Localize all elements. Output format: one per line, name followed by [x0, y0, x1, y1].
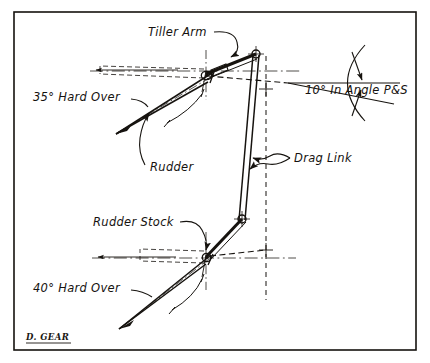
upper-angle-label: 35° Hard Over — [33, 90, 121, 104]
rudder-linkage-diagram: 10° In Angle P&S Tiller Arm 35° Hard Ove… — [0, 0, 430, 363]
rudder-stock-leader — [180, 221, 207, 250]
in-angle-label: 10° In Angle P&S — [305, 83, 408, 97]
rudder-annotation: Rudder — [140, 113, 195, 174]
upper-blade-trailing-edge — [116, 82, 208, 134]
in-angle-detail: 10° In Angle P&S — [288, 45, 408, 121]
upper-rudder-neutral-bottom — [100, 74, 204, 78]
upper-angle-leg-vertical — [202, 71, 206, 92]
drag-link-leader-lower — [250, 158, 290, 169]
upper-angle-leader — [131, 99, 148, 107]
rudder-leader — [140, 113, 149, 165]
drag-link-assembly — [234, 46, 273, 300]
lower-angle-annotation: 40° Hard Over — [33, 281, 152, 297]
tiller-arm-annotation: Tiller Arm — [148, 25, 238, 57]
in-angle-arrow-upper — [352, 52, 362, 80]
drag-link-label: Drag Link — [294, 151, 353, 165]
upper-blade-leading-edge — [116, 73, 212, 134]
upper-rudder-neutral-top — [100, 66, 204, 69]
technical-drawing-canvas: 10° In Angle P&S Tiller Arm 35° Hard Ove… — [0, 0, 430, 363]
rudder-label: Rudder — [150, 160, 194, 174]
lower-blade-trailing-edge — [119, 264, 206, 329]
lower-angle-label: 40° Hard Over — [33, 281, 121, 295]
lower-angle-leader — [131, 290, 152, 297]
signature-block: D. GEAR — [25, 332, 71, 343]
signature-text: D. GEAR — [25, 332, 69, 342]
drag-link-annotation: Drag Link — [250, 151, 353, 169]
upper-rudder-assembly — [90, 50, 300, 134]
upper-deflected-reference-chord — [208, 76, 288, 83]
lower-rudder-assembly — [92, 219, 296, 329]
tiller-arm-label: Tiller Arm — [148, 25, 207, 39]
lower-blade-chord-centerline — [120, 259, 209, 328]
lower-rudder-neutral-bottom — [140, 261, 204, 263]
upper-angle-arc-tick-end — [164, 120, 170, 127]
upper-angle-annotation: 35° Hard Over — [33, 90, 148, 107]
drag-link-leader — [253, 154, 290, 159]
lower-angle-arc-tick-end — [169, 307, 175, 314]
rudder-stock-label: Rudder Stock — [93, 215, 175, 229]
rudder-stock-annotation: Rudder Stock — [93, 215, 207, 250]
lower-rudder-neutral-top — [140, 249, 204, 251]
tiller-arm-leader — [214, 32, 238, 57]
lower-tiller-arm — [206, 219, 242, 257]
lower-tiller-arm-edge — [210, 222, 246, 260]
